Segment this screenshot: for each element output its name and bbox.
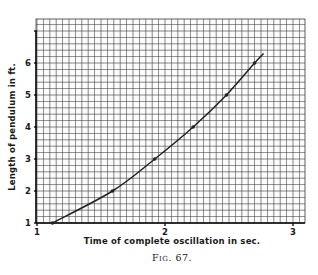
y-tick-label: 6 <box>25 59 31 68</box>
chart-plot-area <box>0 0 318 275</box>
x-tick-label: 3 <box>290 228 296 237</box>
y-tick-label: 4 <box>25 123 31 132</box>
x-tick-label: 1 <box>34 228 40 237</box>
data-point-marker <box>153 157 157 161</box>
figure-caption: Fig. 67. <box>152 252 192 263</box>
y-tick-label: 5 <box>25 91 31 100</box>
y-tick-label: 2 <box>25 187 31 196</box>
data-point-marker <box>253 61 257 65</box>
data-point-marker <box>51 221 55 225</box>
data-point-marker <box>225 93 229 97</box>
y-tick-label: 3 <box>25 155 31 164</box>
y-axis-label: Length of pendulum in ft. <box>7 63 17 191</box>
x-axis-label: Time of complete oscillation in sec. <box>84 236 261 246</box>
y-tick-label: 1 <box>25 219 31 228</box>
x-tick-label: 2 <box>162 228 168 237</box>
data-point-marker <box>111 189 115 193</box>
plot-background <box>36 19 305 223</box>
data-point-marker <box>191 125 195 129</box>
